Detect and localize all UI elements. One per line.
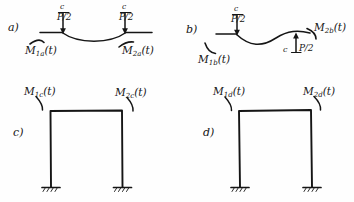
load-magnitude-right-b: P/2: [299, 44, 313, 53]
moment-label-right-d: M2d(t): [303, 86, 335, 99]
moment-argument: (t): [44, 44, 56, 56]
ink-layer: [0, 0, 354, 202]
panel-d-drawing: [225, 97, 321, 192]
frame-outline-d: [239, 110, 312, 187]
frame-outline-c: [51, 111, 123, 188]
moment-symbol: M: [25, 44, 36, 56]
moment-symbol: M: [213, 85, 224, 97]
moment-symbol: M: [303, 85, 314, 97]
moment-subscript: 2c: [126, 92, 134, 100]
moment-leader-left-d: [225, 97, 232, 111]
moment-argument: (t): [134, 86, 146, 98]
panel-tag-b: b): [186, 24, 197, 35]
load-magnitude-left-a: P/2: [57, 13, 71, 22]
moment-label-right-c: M2c(t): [115, 87, 147, 100]
moment-symbol: M: [198, 53, 209, 65]
moment-label-right-a: M2a(t): [122, 45, 154, 58]
moment-subscript: 2b: [325, 27, 334, 35]
fixed-support-left-c: [42, 188, 60, 192]
moment-argument: (t): [323, 85, 335, 97]
moment-symbol: M: [122, 44, 133, 56]
load-marker-left-a: c: [60, 3, 64, 11]
panel-a-drawing: [30, 13, 152, 48]
figure-sheet: a) b) c) d) c P/2 c P/2 M1a(t) M2a(t) c …: [0, 0, 354, 202]
moment-label-left-c: M1c(t): [24, 86, 56, 99]
load-marker-left-b: c: [234, 5, 238, 13]
moment-label-left-d: M1d(t): [213, 86, 245, 99]
fixed-support-right-c: [114, 188, 132, 192]
moment-label-right-b: M2b(t): [314, 22, 346, 35]
moment-argument: (t): [233, 85, 245, 97]
panel-c-drawing: [36, 97, 133, 192]
moment-argument: (t): [334, 21, 346, 33]
panel-tag-d: d): [203, 127, 214, 138]
moment-subscript: 1b: [209, 59, 218, 67]
beam-deflected-shape-a: [40, 33, 152, 42]
load-magnitude-left-b: P/2: [231, 15, 245, 24]
load-marker-right-a: c: [122, 3, 126, 11]
moment-label-left-a: M1a(t): [25, 45, 57, 58]
moment-subscript: 1d: [224, 91, 233, 99]
moment-symbol: M: [115, 86, 126, 98]
moment-argument: (t): [218, 53, 230, 65]
moment-argument: (t): [43, 85, 55, 97]
load-marker-right-b: c: [283, 46, 287, 54]
moment-label-left-b: M1b(t): [198, 54, 230, 67]
moment-argument: (t): [141, 44, 153, 56]
moment-symbol: M: [24, 85, 35, 97]
panel-tag-c: c): [13, 127, 23, 138]
panel-tag-a: a): [8, 22, 19, 33]
moment-leader-left-b: [205, 43, 216, 54]
moment-subscript: 1c: [35, 91, 43, 99]
moment-subscript: 2d: [314, 91, 323, 99]
moment-symbol: M: [314, 21, 325, 33]
load-magnitude-right-a: P/2: [119, 13, 133, 22]
fixed-support-left-d: [231, 188, 249, 192]
fixed-support-right-d: [303, 188, 321, 192]
